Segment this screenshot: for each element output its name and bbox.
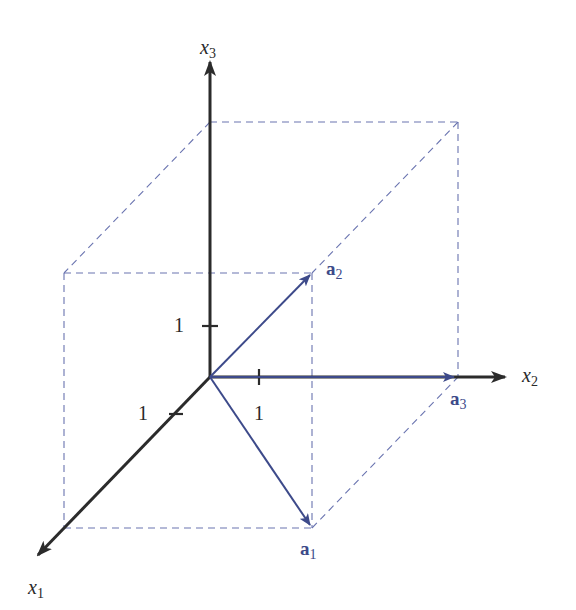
axis-label-x3-sub: 3 <box>209 46 216 61</box>
vector-a1 <box>210 377 310 525</box>
axis-label-x2-sub: 2 <box>531 374 538 389</box>
vector-label-a1-sub: 1 <box>310 547 317 562</box>
vector-label-a2: a2 <box>326 258 343 283</box>
tick-label-x3: 1 <box>174 314 184 337</box>
axis-label-x1: x1 <box>28 576 44 602</box>
vector-label-a2-sub: 2 <box>336 267 343 282</box>
vector-label-a3-base: a <box>450 388 460 409</box>
axis-label-x3: x3 <box>200 36 216 62</box>
axis-label-x1-sub: 1 <box>37 586 44 601</box>
vector-label-a3-sub: 3 <box>460 397 467 412</box>
tick-label-x1: 1 <box>138 402 148 425</box>
vector-label-a1: a1 <box>300 538 317 563</box>
axis-label-x1-base: x <box>28 576 37 598</box>
vector-label-a3: a3 <box>450 388 467 413</box>
vector-a2 <box>210 275 310 377</box>
vector-label-a2-base: a <box>326 258 336 279</box>
vector-label-a1-base: a <box>300 538 310 559</box>
vectors <box>210 275 454 525</box>
axes <box>38 62 505 555</box>
diagram-svg <box>0 0 576 610</box>
axis-label-x3-base: x <box>200 36 209 58</box>
tick-marks <box>169 326 259 414</box>
tick-label-x2: 1 <box>254 402 264 425</box>
axis-label-x2: x2 <box>522 364 538 390</box>
diagram-canvas: x3 x2 x1 1 1 1 a2 a3 a1 <box>0 0 576 610</box>
axis-label-x2-base: x <box>522 364 531 386</box>
